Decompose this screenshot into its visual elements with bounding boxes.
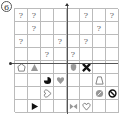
grid-cell [106,35,119,48]
grid-cell [106,87,119,100]
grid-cell: ? [28,22,41,35]
grid-cell [93,48,106,61]
grid-cell [80,48,93,61]
no-symbol-black-icon [108,89,117,98]
grid-cell [41,9,54,22]
grid-cell [41,87,54,100]
puzzle-grid: ??????????? [14,8,118,112]
grid-cell [54,22,67,35]
grid-cell: ? [93,22,106,35]
grid-cell: ? [28,9,41,22]
grid-cell [93,87,106,100]
grid-cell: ? [106,9,119,22]
grid-cell [15,74,28,87]
triangle-right-black-icon [30,102,39,111]
circle-slash-gray-icon [95,89,104,98]
grid-cell [28,48,41,61]
grid-cell [93,35,106,48]
grid-cell [93,100,106,113]
grid-cell [54,48,67,61]
grid-cell [67,9,80,22]
grid-cell [93,9,106,22]
grid-cell [54,87,67,100]
grid-cell [41,22,54,35]
grid-cell [80,87,93,100]
grid-cell: ? [15,9,28,22]
vertical-axis-arrow-icon [65,3,69,6]
grid-cell [106,48,119,61]
bowtie-gray-icon [69,102,78,111]
grid-cell [28,87,41,100]
grid-cell [80,74,93,87]
grid-cell: ? [41,48,54,61]
grid-cell [67,100,80,113]
grid-cell [54,74,67,87]
grid-cell: ? [80,35,93,48]
grid-cell [15,48,28,61]
grid-cell [67,74,80,87]
problem-number-label: 6 [1,1,12,12]
grid-cell [106,22,119,35]
grid-cell [67,22,80,35]
heart-sideways-outline-icon [43,89,52,98]
grid-cell [28,35,41,48]
grid-cell [106,74,119,87]
grid-cell [80,22,93,35]
grid-cell [28,100,41,113]
trapezoid-outline-icon [95,76,104,85]
grid-cell [15,100,28,113]
grid-cell: ? [15,35,28,48]
grid-cell: ? [67,48,80,61]
grid-cell [80,100,93,113]
grid-cell [28,74,41,87]
grid-cell [15,87,28,100]
grid-cell [67,87,80,100]
grid-cell [67,35,80,48]
grid-cell [41,74,54,87]
pacman-black-icon [43,76,52,85]
grid-cell [106,100,119,113]
grid-cell [93,74,106,87]
heart-outline-icon [82,102,91,111]
heart-gray-icon [56,76,65,85]
horizontal-axis-dot-icon [9,62,12,65]
grid-cell [41,35,54,48]
grid-cell [54,100,67,113]
grid-cell [15,22,28,35]
grid-cell [41,100,54,113]
grid-cell: ? [54,35,67,48]
grid-cell: ? [80,9,93,22]
horizontal-axis-line [10,63,118,64]
vertical-axis-line [67,4,68,114]
grid-cell [54,9,67,22]
